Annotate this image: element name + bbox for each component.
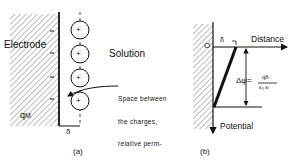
equation-denominator: ε₀ εᵣ <box>259 85 269 91</box>
caption-b: (b) <box>200 148 210 156</box>
equation-numerator: qδ <box>262 74 269 80</box>
charge-label: qM <box>20 111 31 120</box>
ion-sign-2: + <box>76 50 81 58</box>
electrode-hatch-b <box>193 24 213 129</box>
ion-sign-4: + <box>76 97 81 105</box>
panel-a <box>10 12 118 126</box>
potential-drop-line <box>214 47 236 107</box>
solution-label: Solution <box>109 49 145 59</box>
origin-label: O <box>204 42 210 50</box>
annotation-line-1: Space between <box>118 95 167 103</box>
charge-label-sub: M <box>25 112 31 119</box>
caption-a: (a) <box>73 148 83 156</box>
gap-label-a: δ <box>66 128 70 136</box>
annotation-line-3: relative perm- <box>118 140 167 148</box>
potential-label: Potential <box>220 122 253 131</box>
electrode-label: Electrode <box>4 40 46 50</box>
gap-label-b: δ <box>220 36 224 43</box>
equation-lhs: Δψ= <box>236 77 252 85</box>
ion-sign-3: + <box>76 74 81 82</box>
annotation-line-2: the charges, <box>118 118 167 126</box>
ion-sign-1: + <box>76 26 81 34</box>
annotation-text: Space between the charges, relative perm… <box>118 80 167 162</box>
distance-label: Distance <box>251 35 284 44</box>
